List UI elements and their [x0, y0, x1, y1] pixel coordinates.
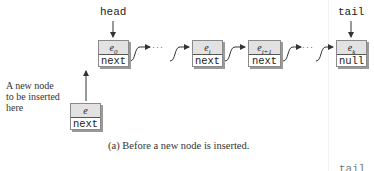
node-next: next: [193, 55, 222, 67]
ellipsis-1: ···: [152, 42, 164, 52]
linked-list-diagram: head tail e0 next ··· ei next ei+1 next …: [0, 0, 374, 171]
new-node-label-line: here: [6, 102, 60, 113]
new-node-label-line: to be inserted: [6, 91, 60, 102]
ei1-next-arrow: [283, 47, 301, 61]
node-element: ei+1: [249, 41, 280, 55]
node-e0: e0 next: [98, 40, 129, 67]
node-element: e0: [99, 41, 128, 55]
node-next: next: [99, 55, 128, 67]
node-ei: ei next: [192, 40, 223, 67]
figure-caption: (a) Before a new node is inserted.: [108, 140, 249, 151]
node-ei-plus-1: ei+1 next: [248, 40, 281, 67]
to-ek-arrow: [316, 47, 333, 61]
new-node-label: A new node to be inserted here: [6, 80, 60, 113]
head-label: head: [100, 6, 126, 18]
node-element: ei: [193, 41, 222, 55]
ellipsis-2: ···: [302, 42, 314, 52]
tail-label: tail: [338, 6, 364, 18]
node-element: e: [71, 104, 100, 118]
node-element: ek: [337, 41, 366, 55]
node-null: null: [337, 55, 366, 67]
node-ek: ek null: [336, 40, 367, 67]
e0-next-arrow: [130, 47, 150, 61]
node-next: next: [71, 118, 100, 130]
ei-next-arrow: [225, 47, 245, 61]
node-new: e next: [70, 103, 101, 130]
new-node-label-line: A new node: [6, 80, 60, 91]
node-next: next: [249, 55, 280, 67]
tail-label-clipped: tail: [339, 163, 365, 171]
to-ei-arrow: [170, 47, 189, 61]
